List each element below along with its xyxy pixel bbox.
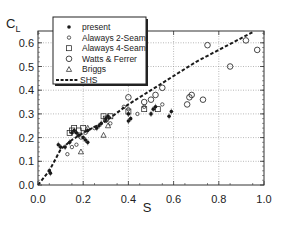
data-point — [75, 143, 78, 146]
data-point — [161, 103, 164, 106]
data-point — [187, 95, 193, 101]
legend-label: Briggs — [82, 64, 106, 74]
y-axis-tick-labels: 0.00.10.20.30.40.50.6 — [19, 37, 34, 191]
data-point — [184, 102, 190, 108]
y-tick-label: 0.0 — [19, 179, 34, 191]
data-point — [148, 97, 154, 103]
legend-label: Watts & Ferrer — [82, 54, 137, 64]
data-point — [86, 141, 90, 145]
x-tick-label: 0.0 — [30, 193, 45, 205]
x-tick-label: 0.4 — [121, 193, 136, 205]
y-tick-label: 0.2 — [19, 132, 34, 144]
y-tick-label: 0.1 — [19, 155, 34, 167]
y-tick-label: 0.3 — [19, 108, 34, 120]
series-present — [48, 104, 174, 176]
data-point — [129, 117, 133, 121]
y-tick-label: 0.4 — [19, 84, 34, 96]
x-tick-label: 0.2 — [76, 193, 91, 205]
data-point — [101, 132, 106, 137]
x-tick-label: 1.0 — [256, 193, 271, 205]
x-tick-label: 0.8 — [211, 193, 226, 205]
data-point — [167, 114, 171, 118]
legend-marker-icon — [67, 25, 71, 29]
x-axis-title: S — [143, 200, 152, 215]
data-point — [153, 92, 159, 98]
data-point — [189, 92, 195, 98]
data-point — [141, 99, 147, 105]
legend-label: SHS — [80, 75, 98, 85]
data-point — [78, 149, 83, 154]
legend-label: Alaways 2-Seam — [82, 33, 146, 43]
data-point — [59, 145, 63, 149]
x-tick-label: 0.6 — [166, 193, 181, 205]
y-axis-title: CL — [6, 16, 20, 34]
legend-label: present — [82, 22, 111, 32]
data-point — [254, 47, 260, 53]
data-point — [149, 112, 153, 116]
data-point — [160, 85, 166, 91]
y-tick-label: 0.6 — [19, 37, 34, 49]
series-alaways-4-seam — [67, 107, 160, 136]
data-point — [243, 38, 249, 44]
data-point — [170, 110, 174, 114]
y-tick-label: 0.5 — [19, 61, 34, 73]
y-axis-title-subscript: L — [15, 24, 20, 34]
data-point — [200, 97, 206, 103]
data-point — [205, 42, 211, 48]
data-point — [70, 145, 73, 148]
legend: presentAlaways 2-SeamAlaways 4-SeamWatts… — [53, 17, 148, 86]
legend-label: Alaways 4-Seam — [82, 43, 146, 53]
y-axis-title-main: C — [6, 16, 15, 31]
chart-figure: 0.00.20.40.60.81.0 0.00.10.20.30.40.50.6… — [0, 0, 284, 225]
data-point — [66, 152, 69, 155]
